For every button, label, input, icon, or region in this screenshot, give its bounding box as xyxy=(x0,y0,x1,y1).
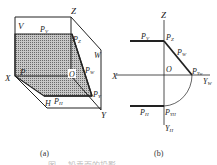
caption-b: (b) xyxy=(154,149,164,158)
label-pv: PV xyxy=(39,25,49,34)
panel-a-3d-view: V Z W X Y P O PV PZ PW PY H PH xyxy=(4,6,107,120)
label-y: Y xyxy=(101,110,107,120)
panel-b-projection: Z X O PV PZ PW PYw YW PH PYH YH xyxy=(111,10,212,133)
label-pv-b: PV xyxy=(140,32,150,41)
label-v: V xyxy=(18,21,25,31)
label-py: PY xyxy=(92,90,102,99)
label-pw-b: PW xyxy=(176,48,187,57)
label-pz: PZ xyxy=(72,35,81,44)
label-ph-b: PH xyxy=(139,108,149,117)
label-h: H xyxy=(44,99,52,108)
label-yh-b: YH xyxy=(165,124,173,133)
figure-caption-faint: 图 … 铅垂面的投影 xyxy=(48,160,116,165)
transfer-arc xyxy=(164,75,192,106)
projection-diagram: V Z W X Y P O PV PZ PW PY H PH Z X O PV … xyxy=(0,0,217,165)
label-pyh-b: PYH xyxy=(164,108,176,117)
label-p: P xyxy=(19,67,26,77)
caption-a: (a) xyxy=(40,149,49,158)
label-z-b: Z xyxy=(161,10,167,20)
label-pz-b: PZ xyxy=(165,33,174,42)
label-ph: PH xyxy=(53,97,63,106)
label-z: Z xyxy=(71,6,77,16)
label-pw: PW xyxy=(84,66,95,75)
label-x: X xyxy=(4,73,11,83)
label-yw-b: YW xyxy=(203,77,212,86)
label-x-b: X xyxy=(111,71,118,81)
label-o-b: O xyxy=(166,65,172,74)
label-o: O xyxy=(69,70,75,79)
label-pyw-b: PYw xyxy=(191,67,202,76)
